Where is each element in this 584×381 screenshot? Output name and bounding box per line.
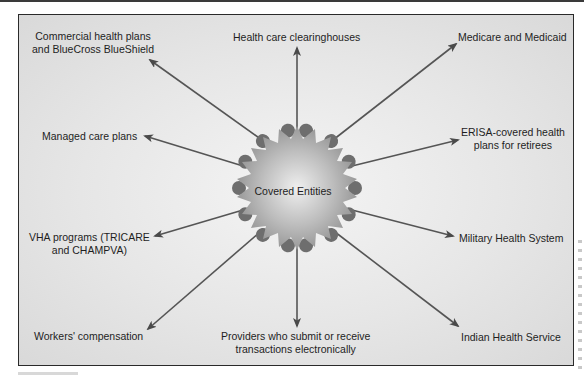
label-indian-health: Indian Health Service (461, 331, 561, 344)
label-clearinghouses: Health care clearinghouses (233, 31, 360, 44)
label-line: Workers' compensation (34, 330, 143, 343)
caption-fragment (18, 372, 78, 375)
arrow-medicare (333, 44, 456, 140)
label-medicare: Medicare and Medicaid (458, 31, 567, 44)
arrow-erisa (352, 140, 458, 166)
label-line: VHA programs (TRICARE (29, 231, 150, 244)
label-line: Indian Health Service (461, 331, 561, 344)
label-line: ERISA-covered health (461, 126, 565, 139)
arrow-managed-care (145, 136, 243, 166)
label-erisa: ERISA-covered health plans for retirees (461, 126, 565, 152)
label-providers: Providers who submit or receive transact… (221, 330, 370, 356)
label-managed-care: Managed care plans (42, 130, 137, 143)
label-line: Health care clearinghouses (233, 31, 360, 44)
label-line: and CHAMPVA) (29, 244, 150, 257)
label-line: Providers who submit or receive (221, 330, 370, 343)
label-line: Military Health System (459, 232, 563, 245)
page-edge-marks (578, 240, 582, 370)
arrow-indian-health (335, 232, 458, 326)
label-line: Managed care plans (42, 130, 137, 143)
center-label: Covered Entities (233, 185, 353, 197)
arrow-vha (155, 210, 243, 236)
arrow-workers-comp (148, 232, 260, 329)
label-vha: VHA programs (TRICARE and CHAMPVA) (29, 231, 150, 257)
label-line: Medicare and Medicaid (458, 31, 567, 44)
label-line: and BlueCross BlueShield (32, 43, 154, 56)
arrow-military (352, 210, 453, 236)
label-commercial: Commercial health plans and BlueCross Bl… (32, 30, 154, 56)
arrow-commercial (150, 60, 262, 140)
label-workers-comp: Workers' compensation (34, 330, 143, 343)
label-military: Military Health System (459, 232, 563, 245)
label-line: transactions electronically (221, 343, 370, 356)
label-line: Commercial health plans (32, 30, 154, 43)
label-line: plans for retirees (461, 139, 565, 152)
